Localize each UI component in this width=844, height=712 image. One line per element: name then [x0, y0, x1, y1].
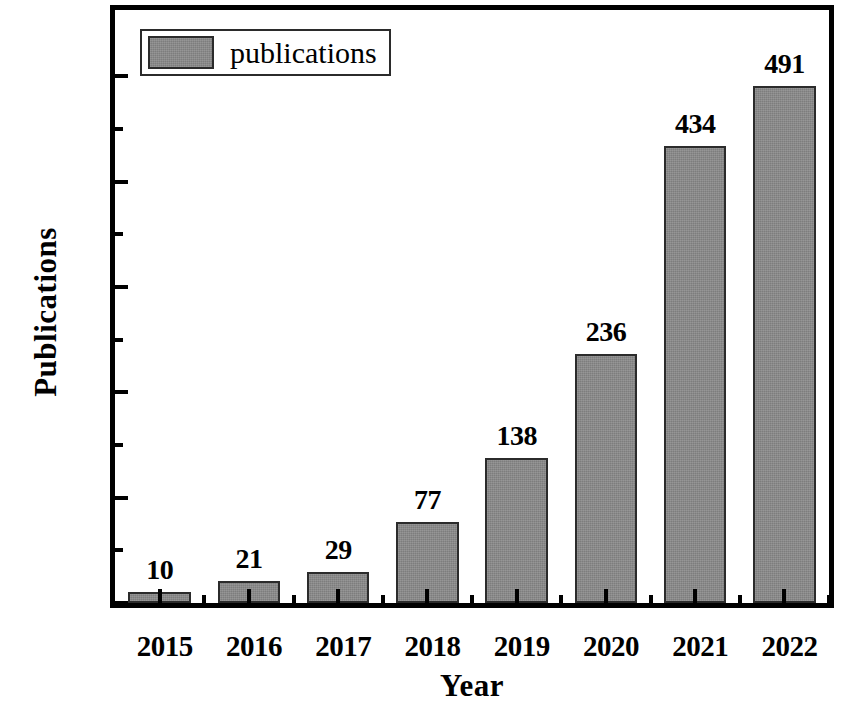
bar-2019	[485, 458, 547, 603]
x-axis-tick-major	[158, 589, 162, 603]
chart-legend: publications	[140, 29, 391, 76]
x-axis-tick-minor	[381, 595, 385, 603]
x-axis-tick-major	[247, 589, 251, 603]
bar-chart-figure: Publications Year 0100200300400500102129…	[0, 0, 844, 712]
x-axis-tick-minor	[202, 595, 206, 603]
plot-inner: 010020030040050010212977138236434491	[115, 10, 829, 603]
y-axis-tick-major	[115, 390, 128, 394]
y-axis-tick-minor	[115, 548, 123, 552]
y-axis-title: Publications	[28, 162, 64, 462]
y-axis-tick-major	[115, 285, 128, 289]
bar-value-2020: 236	[536, 318, 676, 346]
bar-value-2021: 434	[625, 110, 765, 138]
x-axis-tick-major	[425, 589, 429, 603]
x-axis-tick-minor	[292, 595, 296, 603]
x-axis-tick-major	[336, 589, 340, 603]
y-axis-tick-major	[115, 601, 128, 605]
plot-area: 010020030040050010212977138236434491 pub…	[110, 5, 834, 608]
bar-2022	[753, 86, 815, 603]
y-axis-tick-minor	[115, 232, 123, 236]
y-axis-tick-major	[115, 74, 128, 78]
x-axis-tick-major	[604, 589, 608, 603]
y-axis-tick-minor	[115, 127, 123, 131]
bar-value-2022: 491	[714, 50, 844, 78]
x-axis-tick-label-2022: 2022	[729, 630, 844, 663]
x-axis-tick-minor	[738, 595, 742, 603]
x-axis-tick-minor	[827, 595, 831, 603]
x-axis-tick-minor	[470, 595, 474, 603]
x-axis-tick-major	[693, 589, 697, 603]
bar-value-2018: 77	[357, 486, 497, 514]
x-axis-tick-minor	[649, 595, 653, 603]
x-axis-tick-major	[515, 589, 519, 603]
y-axis-tick-minor	[115, 338, 123, 342]
y-axis-tick-minor	[115, 443, 123, 447]
x-axis-tick-minor	[559, 595, 563, 603]
y-axis-tick-major	[115, 496, 128, 500]
bar-2021	[664, 146, 726, 603]
legend-swatch-publications	[148, 36, 214, 69]
y-axis-tick-major	[115, 180, 128, 184]
x-axis-tick-major	[782, 589, 786, 603]
x-axis-title: Year	[110, 668, 834, 704]
bar-value-2019: 138	[447, 422, 587, 450]
bar-value-2017: 29	[268, 536, 408, 564]
bar-2020	[575, 354, 637, 603]
legend-label-publications: publications	[230, 38, 377, 68]
